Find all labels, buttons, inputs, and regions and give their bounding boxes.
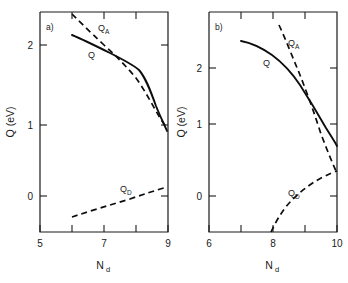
panel-a-curve-label-q: Q bbox=[88, 50, 95, 60]
panel-a-yticks bbox=[40, 45, 168, 196]
panel-b-x-axis-title-base: N bbox=[265, 259, 273, 271]
panel-b-curve-label-q: Q bbox=[263, 58, 270, 68]
panel-a-curve-q bbox=[72, 35, 167, 131]
panel-a-x-axis-title-base: N bbox=[96, 259, 104, 271]
panel-a-curve-label-qd-base: Q bbox=[120, 184, 127, 194]
panel-b-x-axis-title: N d bbox=[265, 259, 279, 274]
panel-a-curve-label-qd: Q D bbox=[120, 184, 132, 196]
panel-b-curve-q bbox=[241, 41, 337, 146]
panel-a-y-axis-title: Q (eV) bbox=[4, 107, 16, 138]
panel-a-curve-label-qa-base: Q bbox=[98, 23, 105, 33]
panel-b-xtick-label-6: 6 bbox=[206, 238, 212, 249]
panel-b-ytick-label-1: 1 bbox=[196, 119, 202, 130]
panel-a-x-axis-title: N d bbox=[96, 259, 110, 274]
panel-a: 5 7 9 2 1 0 Q (eV) N d a) Q bbox=[4, 12, 171, 274]
panel-a-xtick-label-5: 5 bbox=[37, 238, 43, 249]
panel-a-ytick-label-0: 0 bbox=[27, 191, 33, 202]
panel-a-curve-label-qa: Q A bbox=[98, 23, 110, 35]
panel-b-label: b) bbox=[215, 22, 223, 32]
panel-a-xtick-label-7: 7 bbox=[101, 238, 107, 249]
panel-a-curve-label-qd-sub: D bbox=[127, 189, 132, 196]
panel-b-x-axis-title-sub: d bbox=[275, 265, 279, 274]
figure-container: 5 7 9 2 1 0 Q (eV) N d a) Q bbox=[0, 0, 348, 283]
panel-b-y-axis-title: Q (eV) bbox=[175, 107, 187, 138]
figure-svg: 5 7 9 2 1 0 Q (eV) N d a) Q bbox=[0, 0, 348, 283]
panel-b: 6 8 10 2 1 0 Q (eV) N d b) Q bbox=[175, 12, 343, 274]
panel-b-curve-label-qa-base: Q bbox=[288, 38, 295, 48]
panel-b-curve-label-qa-sub: A bbox=[295, 43, 300, 50]
panel-a-label: a) bbox=[46, 22, 54, 32]
panel-b-xtick-label-8: 8 bbox=[270, 238, 276, 249]
panel-b-xtick-label-10: 10 bbox=[331, 238, 343, 249]
panel-b-ytick-label-2: 2 bbox=[196, 63, 202, 74]
panel-a-curve-qa bbox=[72, 14, 166, 127]
panel-a-curve-label-qa-sub: A bbox=[105, 28, 110, 35]
panel-a-xtick-label-9: 9 bbox=[165, 238, 171, 249]
panel-a-x-axis-title-sub: d bbox=[106, 265, 110, 274]
panel-a-ytick-label-1: 1 bbox=[27, 120, 33, 131]
panel-b-curve-qd bbox=[271, 171, 337, 232]
panel-b-yticks bbox=[209, 68, 337, 196]
panel-b-ytick-label-0: 0 bbox=[196, 191, 202, 202]
panel-b-curve-label-qd-sub: D bbox=[295, 193, 300, 200]
panel-a-ytick-label-2: 2 bbox=[27, 40, 33, 51]
panel-b-curve-label-qd-base: Q bbox=[288, 188, 295, 198]
